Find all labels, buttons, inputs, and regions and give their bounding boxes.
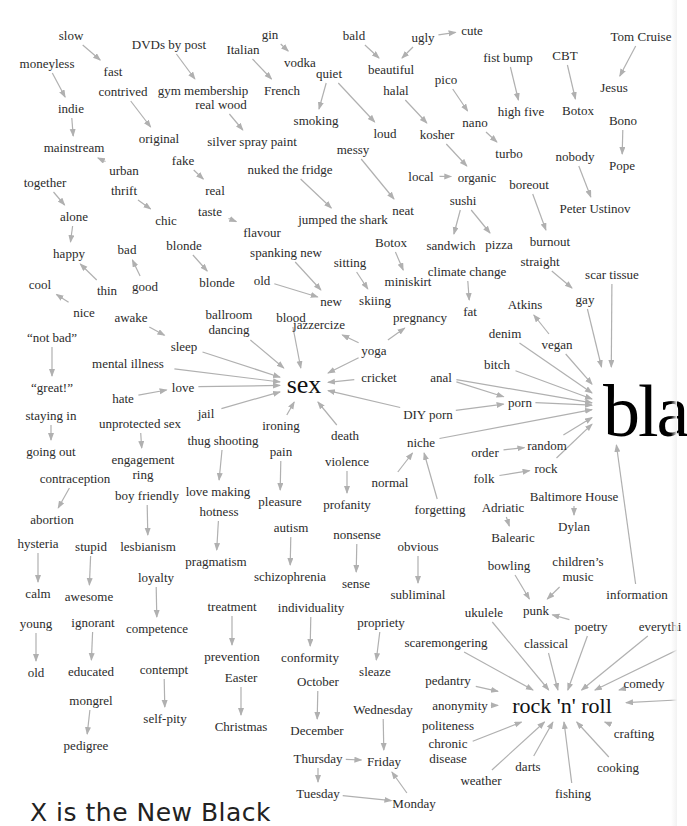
arrow-information-to-black <box>616 445 635 584</box>
node-balearic: Balearic <box>491 530 534 545</box>
node-indie: indie <box>58 101 84 116</box>
arrow-order-to-random <box>504 448 525 450</box>
node-ugly: ugly <box>411 30 434 45</box>
node-quiet: quiet <box>316 66 342 81</box>
node-anonymity: anonymity <box>432 698 488 713</box>
node-nice: nice <box>73 305 95 320</box>
node-alone: alone <box>60 209 88 224</box>
arrow-nano-to-turbo <box>486 132 497 142</box>
node-prevention: prevention <box>204 649 260 664</box>
node-december: December <box>290 723 343 738</box>
node-going-out: going out <box>26 444 75 459</box>
node-sleaze: sleaze <box>359 664 391 679</box>
node-love: love <box>172 380 194 395</box>
arrow-slow-to-fast <box>83 45 101 60</box>
node-crafting: crafting <box>614 726 654 741</box>
node-cricket: cricket <box>361 370 396 385</box>
node-vodka: vodka <box>284 55 316 70</box>
node-ballroom: ballroom dancing <box>206 307 253 337</box>
node-nobody: nobody <box>556 149 595 164</box>
arrow-old-m-to-new <box>274 284 317 297</box>
node-climate: climate change <box>428 264 506 279</box>
arrow-fist-bump-to-high-five <box>510 67 518 100</box>
arrow-gay-to-black <box>587 309 601 367</box>
arrow-botox2-to-miniskirt <box>395 252 403 270</box>
node-contempt: contempt <box>140 662 188 677</box>
node-turbo: turbo <box>495 146 522 161</box>
node-taste: taste <box>198 204 222 219</box>
arrow-contempt-to-self-pity <box>164 679 165 707</box>
node-thrift: thrift <box>111 183 137 198</box>
node-loyalty: loyalty <box>138 570 174 585</box>
node-kosher: kosher <box>420 127 455 142</box>
node-neat: neat <box>392 203 414 218</box>
arrow-diy-porn-to-sex <box>328 391 400 408</box>
node-forgetting: forgetting <box>414 502 465 517</box>
node-burnout: burnout <box>530 234 570 249</box>
node-subliminal: subliminal <box>391 587 446 602</box>
arrow-contraception-to-abortion <box>58 488 69 508</box>
arrow-contrived-to-original <box>131 101 151 127</box>
arrow-pedantry-to-rock-n-roll <box>476 686 498 691</box>
arrow-halal-to-kosher <box>405 100 427 123</box>
node-obvious: obvious <box>397 539 438 554</box>
node-mainstream: mainstream <box>44 140 105 155</box>
node-love-making: love making <box>186 484 251 499</box>
arrow-thrift-to-chic <box>138 200 151 209</box>
node-organic: organic <box>458 170 497 185</box>
node-not-bad: “not bad” <box>27 330 77 345</box>
node-thin: thin <box>97 283 117 298</box>
node-original: original <box>139 131 179 146</box>
node-violence: violence <box>325 454 369 469</box>
node-baltimore: Baltimore House <box>530 489 618 504</box>
node-mental-illness: mental illness <box>92 356 164 371</box>
arrow-ugly-to-beautiful <box>402 47 413 58</box>
arrow-nonsense-to-sense <box>356 544 357 572</box>
node-politeness: politeness <box>422 718 474 733</box>
arrow-bono-to-pope <box>622 130 623 154</box>
node-sitting: sitting <box>334 255 367 270</box>
node-monday: Monday <box>392 796 435 811</box>
arrow-alone-to-happy <box>71 226 73 242</box>
arrow-italian-to-french <box>253 59 272 79</box>
node-darts: darts <box>515 759 540 774</box>
node-ignorant: ignorant <box>71 615 114 630</box>
node-pedantry: pedantry <box>425 673 470 688</box>
node-messy: messy <box>337 142 370 157</box>
arrow-together-to-alone <box>54 192 65 205</box>
node-comedy: comedy <box>623 676 664 691</box>
node-friday: Friday <box>367 754 401 769</box>
arrow-pain-to-pleasure <box>280 461 281 490</box>
arrow-yoga-to-jazzercize <box>342 335 358 343</box>
node-profanity: profanity <box>323 497 371 512</box>
node-cbt: CBT <box>552 48 577 63</box>
node-sense: sense <box>342 576 370 591</box>
arrow-jail-to-sex <box>221 392 280 409</box>
node-ukulele: ukulele <box>465 605 503 620</box>
node-hate: hate <box>112 391 134 406</box>
arrow-death-to-sex <box>318 402 337 425</box>
node-real: real <box>205 183 224 198</box>
node-self-pity: self-pity <box>143 711 186 726</box>
arrow-indie-to-mainstream <box>72 118 73 136</box>
node-scaremongering: scaremongering <box>404 635 487 650</box>
node-chic: chic <box>155 213 177 228</box>
arrow-comedy-to-rock-n-roll <box>619 689 622 690</box>
node-diy-porn: DIY porn <box>403 407 453 422</box>
node-bowling: bowling <box>488 558 531 573</box>
arrow-quiet-to-loud <box>338 83 374 122</box>
node-anal: anal <box>430 370 452 385</box>
arrow-kosher-to-organic <box>446 144 467 166</box>
node-sleep: sleep <box>171 339 198 354</box>
arrow-love-to-sex <box>198 385 280 386</box>
hub-rock-n-roll: rock 'n' roll <box>512 694 612 718</box>
node-awesome: awesome <box>65 589 113 604</box>
node-pleasure: pleasure <box>258 494 301 509</box>
arrow-vegan-to-atkins <box>534 315 549 334</box>
node-skiing: skiing <box>359 293 391 308</box>
arrow-sleep-to-sex <box>203 352 281 377</box>
node-slow: slow <box>59 28 84 43</box>
arrow-awake-to-sleep <box>149 327 164 335</box>
node-nonsense: nonsense <box>333 527 381 542</box>
node-real-wood: real wood <box>195 97 247 112</box>
